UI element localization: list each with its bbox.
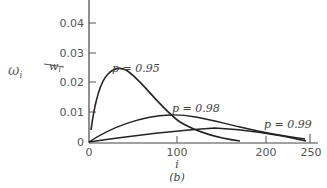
label-p098: p = 0.98 [172, 102, 220, 115]
y-tick-label: 0.01 [60, 106, 85, 119]
x-label: i [175, 158, 179, 171]
label-p099: p = 0.99 [264, 118, 312, 131]
y-tick-label: 0.02 [60, 76, 85, 89]
x-tick-label: 0 [86, 146, 93, 159]
label-p095: p = 0.95 [112, 62, 160, 75]
chart: 0.04 0.03 0.02 0.01 0 0 100 200 250 p = … [0, 0, 327, 188]
y-label: wi [49, 60, 61, 74]
y-tick-label: 0.03 [60, 47, 85, 60]
y-tick-label: 0.04 [60, 17, 85, 30]
x-tick-label: 250 [301, 146, 322, 159]
x-tick-label: 200 [256, 146, 277, 159]
y-label-handwritten: ωi [8, 62, 22, 80]
caption: (b) [169, 171, 185, 184]
y-tick-label: 0 [77, 136, 84, 149]
